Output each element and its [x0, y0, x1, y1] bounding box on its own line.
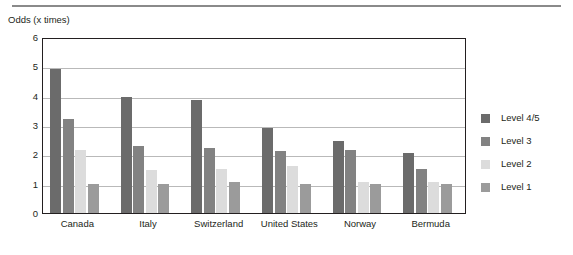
y-axis-title: Odds (x times) [8, 14, 70, 26]
bar-series-layer [43, 39, 465, 213]
x-axis-tick-label: Canada [61, 218, 94, 230]
x-axis-tick-label: Switzerland [194, 218, 243, 230]
y-axis-tick-label: 1 [4, 180, 38, 190]
bar-group [121, 39, 170, 213]
bar-group [50, 39, 99, 213]
legend-item: Level 4/5 [481, 112, 569, 135]
bar [63, 119, 74, 213]
bar [287, 166, 298, 213]
x-axis-tick-label: United States [261, 218, 318, 230]
y-axis-tick-labels: 6543210 [0, 38, 38, 214]
legend-item: Level 2 [481, 158, 569, 181]
legend-label: Level 2 [501, 158, 532, 170]
legend-item: Level 3 [481, 135, 569, 158]
bar [158, 184, 169, 213]
bar [262, 128, 273, 213]
legend-label: Level 3 [501, 135, 532, 147]
bar [403, 153, 414, 213]
bar [204, 148, 215, 213]
bar [191, 100, 202, 213]
bar [88, 184, 99, 213]
bar [216, 169, 227, 213]
legend-swatch-icon [481, 183, 490, 192]
legend-swatch-icon [481, 160, 490, 169]
x-axis-category-labels: CanadaItalySwitzerlandUnited StatesNorwa… [42, 218, 466, 232]
x-axis-tick-label: Norway [344, 218, 376, 230]
legend-swatch-icon [481, 137, 490, 146]
bar [358, 182, 369, 213]
bar-group [262, 39, 311, 213]
y-axis-tick-label: 2 [4, 150, 38, 160]
x-axis-tick-label: Italy [139, 218, 156, 230]
x-axis-tick-label: Bermuda [411, 218, 450, 230]
bar-group [191, 39, 240, 213]
bar [428, 182, 439, 213]
chart-legend: Level 4/5Level 3Level 2Level 1 [481, 112, 569, 204]
bar [370, 184, 381, 213]
bar-group [333, 39, 382, 213]
bar [275, 151, 286, 213]
y-axis-tick-label: 3 [4, 121, 38, 131]
top-divider-rule [12, 5, 561, 7]
legend-label: Level 4/5 [501, 112, 540, 124]
bar [333, 141, 344, 213]
bar [146, 170, 157, 213]
y-axis-tick-label: 0 [4, 209, 38, 219]
bar [50, 69, 61, 213]
bar [300, 184, 311, 213]
y-axis-tick-label: 4 [4, 92, 38, 102]
bar [133, 146, 144, 213]
legend-swatch-icon [481, 114, 490, 123]
y-axis-tick-label: 5 [4, 62, 38, 72]
bar [229, 182, 240, 213]
bar [121, 97, 132, 213]
chart-plot-area [42, 38, 466, 214]
bar-group [403, 39, 452, 213]
bar [75, 150, 86, 213]
bar [345, 150, 356, 213]
legend-label: Level 1 [501, 181, 532, 193]
legend-item: Level 1 [481, 181, 569, 204]
y-axis-tick-label: 6 [4, 33, 38, 43]
bar [416, 169, 427, 213]
bar [441, 184, 452, 213]
